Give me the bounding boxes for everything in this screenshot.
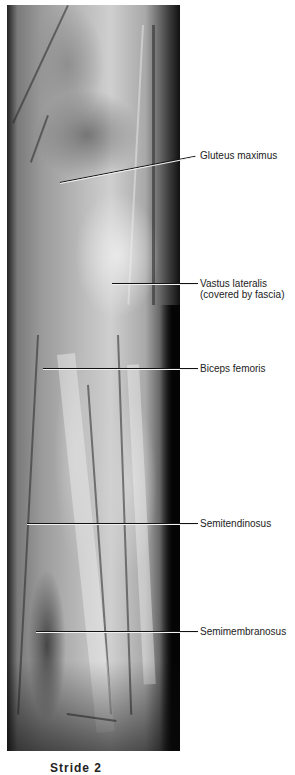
photo-bottom-shadow xyxy=(7,661,180,751)
label-biceps-femoris: Biceps femoris xyxy=(200,363,266,374)
label-vastus-lateralis: Vastus lateralis xyxy=(200,278,267,289)
figure-caption: Stride 2 xyxy=(50,761,102,775)
leader-line-semitendinosus xyxy=(27,523,198,525)
anatomy-photograph xyxy=(7,5,180,751)
muscle-edge-highlight xyxy=(127,25,144,305)
leader-line-vastus-lateralis xyxy=(112,283,198,285)
label-vastus-lateralis-note: (covered by fascia) xyxy=(200,289,284,300)
leader-line-semimembranosus xyxy=(36,631,198,633)
fascia-crease xyxy=(30,115,49,163)
leader-line-biceps-femoris xyxy=(43,368,198,370)
label-semimembranosus: Semimembranosus xyxy=(200,626,286,637)
label-gluteus-maximus: Gluteus maximus xyxy=(200,150,277,161)
fascia-crease xyxy=(12,5,69,124)
label-semitendinosus: Semitendinosus xyxy=(200,518,271,529)
